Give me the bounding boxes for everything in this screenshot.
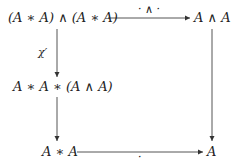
node-top-right: A ∧ A	[194, 11, 231, 25]
node-middle-left: A ∗ A ∗ (A ∧ A)	[13, 80, 113, 94]
node-top-left: (A ∗ A) ∧ (A ∗ A)	[8, 11, 118, 25]
label-left-upper-arrow: χ′	[38, 47, 47, 59]
node-bottom-right: A	[207, 145, 216, 159]
label-bottom-arrow: ·	[138, 152, 142, 164]
node-bottom-left: A ∗ A	[42, 145, 78, 159]
label-top-arrow: · ∧ ·	[138, 4, 160, 16]
